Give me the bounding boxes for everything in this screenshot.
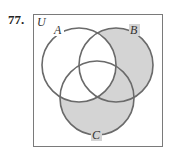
set-a-label: A: [53, 23, 62, 37]
venn-diagram: U A B C: [0, 0, 173, 157]
universe-label: U: [37, 15, 47, 29]
set-c-label: C: [92, 128, 101, 142]
set-b-label: B: [130, 23, 138, 37]
